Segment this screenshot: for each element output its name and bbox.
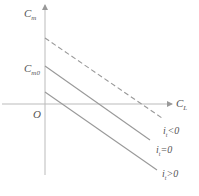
label-it-negative: it<0 (163, 125, 179, 138)
intercept-label: Cm0 (24, 62, 40, 77)
origin-label: O (33, 108, 41, 120)
y-axis-label: Cm (24, 7, 36, 22)
label-it-zero: it=0 (156, 144, 172, 157)
x-axis-label: CL (176, 97, 187, 112)
cm-cl-diagram: Cm CL O Cm0 it<0 it=0 it>0 (0, 0, 199, 196)
label-it-positive: it>0 (162, 168, 178, 181)
